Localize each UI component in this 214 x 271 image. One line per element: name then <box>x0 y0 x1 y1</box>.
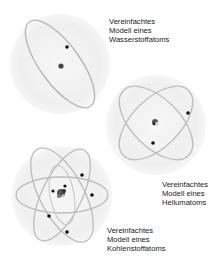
carbon-electron-6 <box>65 230 69 234</box>
carbon-electron-3 <box>51 189 54 192</box>
carbon-electron-2 <box>63 184 66 187</box>
carbon-label: Vereinfachtes Modell eines Kohlenstoffat… <box>107 226 166 253</box>
helium-atom-model <box>106 74 206 175</box>
carbon-electron-4 <box>90 193 94 197</box>
hydrogen-atom-model <box>10 10 110 118</box>
helium-label-line-2: Modell eines <box>162 189 208 198</box>
helium-electron-1 <box>186 111 190 115</box>
hydrogen-label-line-1: Vereinfachtes <box>109 17 169 26</box>
helium-label-line-3: Heliumatoms <box>162 198 208 207</box>
helium-electron-2 <box>151 141 155 145</box>
helium-label-line-1: Vereinfachtes <box>162 180 208 189</box>
hydrogen-label: Vereinfachtes Modell eines Wasserstoffat… <box>109 17 169 44</box>
hydrogen-label-line-2: Modell eines <box>109 26 169 35</box>
helium-label: Vereinfachtes Modell eines Heliumatoms <box>162 180 208 207</box>
hydrogen-nucleus <box>58 63 63 68</box>
hydrogen-electron <box>65 45 69 49</box>
carbon-electron-1 <box>80 173 84 177</box>
carbon-label-line-2: Modell eines <box>107 235 166 244</box>
carbon-electron-5 <box>47 214 51 218</box>
carbon-atom-model <box>12 139 112 251</box>
carbon-label-line-1: Vereinfachtes <box>107 226 166 235</box>
hydrogen-label-line-3: Wasserstoffatoms <box>109 35 169 44</box>
carbon-label-line-3: Kohlenstoffatoms <box>107 244 166 253</box>
